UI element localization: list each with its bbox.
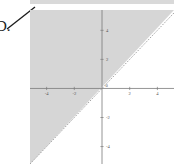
top-edge-band [30, 0, 174, 4]
inequality-graph: -4-224-4-2240 [30, 10, 174, 164]
x-tick-label: 2 [129, 91, 132, 96]
figure-root: D. -4-224-4-2240 [0, 0, 174, 164]
coordinate-plane: -4-224-4-2240 [30, 10, 174, 164]
x-tick-label: 4 [156, 91, 159, 96]
answer-choice-label: D. [0, 18, 11, 35]
y-tick-label: -2 [106, 115, 111, 120]
y-tick-label: -4 [106, 144, 111, 149]
